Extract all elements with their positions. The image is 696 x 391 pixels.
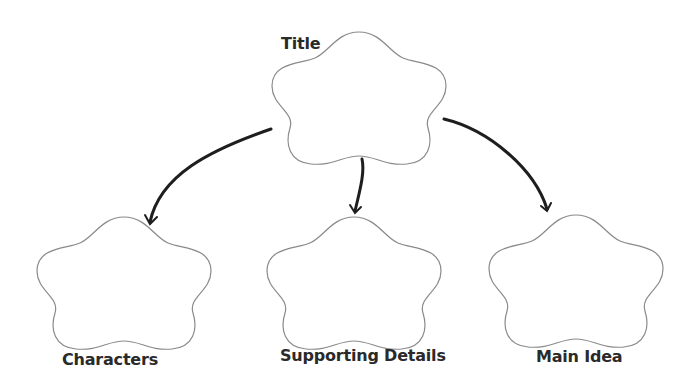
arrow-to-supporting-details xyxy=(350,159,363,213)
diagram-canvas xyxy=(0,0,696,391)
arrow-to-main-idea xyxy=(444,119,551,211)
cloud-characters xyxy=(37,217,211,349)
label-characters: Characters xyxy=(62,350,158,369)
label-supporting-details: Supporting Details xyxy=(280,346,446,365)
arrow-to-characters xyxy=(145,129,271,224)
label-main-idea: Main Idea xyxy=(536,347,622,366)
cloud-main-idea xyxy=(489,215,663,347)
cloud-supporting-details xyxy=(267,217,441,349)
label-title: Title xyxy=(281,34,320,53)
